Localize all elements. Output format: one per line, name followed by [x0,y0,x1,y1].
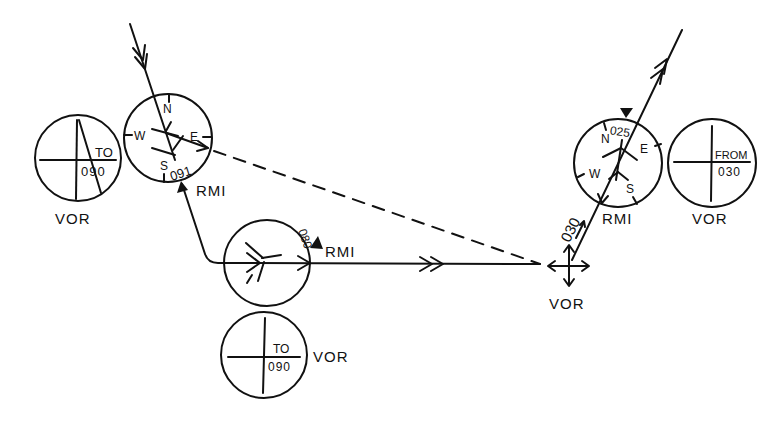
right-compass-south: S [626,182,634,196]
right-compass-east: E [640,142,648,156]
lower-vor-instrument: TO 090 VOR [221,312,349,398]
lower-vor-flag: TO [273,342,289,356]
right-rmi-bearing: 025 [609,123,631,140]
compass-south: S [160,159,168,173]
lower-vor-course: 090 [268,360,291,374]
right-compass-north: N [601,132,610,146]
upper-rmi-label: RMI [196,182,227,199]
lower-vor-label: VOR [313,348,349,365]
diagram-canvas: TO 090 VOR N W E S 091 RMI [0,0,783,429]
right-vor-label: VOR [692,210,728,227]
upper-rmi-instrument: N W E S 091 RMI [124,94,227,199]
right-vor-instrument: FROM 030 VOR [668,119,756,227]
right-compass-west: W [589,167,601,181]
navigation-diagram: TO 090 VOR N W E S 091 RMI [0,0,783,429]
intercept-leg [182,184,540,271]
station-label: VOR [549,295,585,312]
compass-north: N [163,102,172,116]
direct-course-dashed-line [214,151,540,264]
left-vor-instrument: TO 090 VOR [35,115,121,227]
left-vor-flag: TO [95,145,113,160]
right-rmi-instrument: 025 N E W S RMI [574,108,662,227]
radial-label: 030 [557,215,583,245]
right-vor-flag: FROM [715,149,747,161]
right-vor-course: 030 [718,165,741,179]
right-rmi-label: RMI [602,210,633,227]
compass-west: W [134,129,146,143]
left-vor-label: VOR [55,210,91,227]
left-vor-course: 090 [81,164,106,179]
upper-rmi-bearing: 091 [168,163,193,184]
mid-rmi-label: RMI [325,243,356,260]
vor-station-symbol: VOR [548,245,589,312]
